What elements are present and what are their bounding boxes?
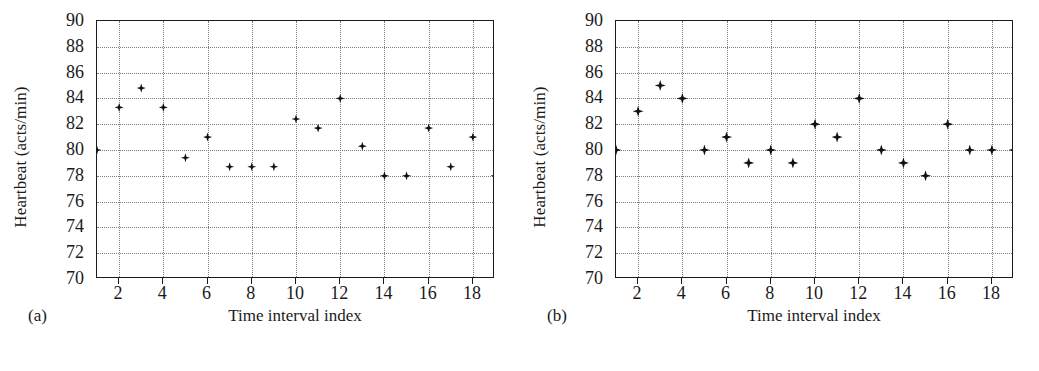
y-tick-label: 88 bbox=[66, 37, 84, 55]
x-axis-label-a: Time interval index bbox=[96, 306, 494, 326]
data-point bbox=[137, 84, 146, 93]
data-point bbox=[358, 142, 367, 151]
data-point bbox=[446, 162, 455, 171]
data-point bbox=[292, 115, 301, 124]
x-tick-label: 16 bbox=[938, 284, 956, 304]
data-point bbox=[876, 145, 887, 156]
panel-b: Heartbeat (acts/min) 7072747678808284868… bbox=[519, 0, 1038, 371]
data-point bbox=[920, 170, 931, 181]
data-point bbox=[203, 133, 212, 142]
data-point bbox=[115, 103, 124, 112]
x-tick-label: 8 bbox=[765, 284, 774, 304]
y-tick-label: 84 bbox=[66, 88, 84, 106]
y-tick-label: 84 bbox=[585, 88, 603, 106]
data-point bbox=[898, 157, 909, 168]
y-tick-label: 70 bbox=[585, 269, 603, 287]
data-point bbox=[402, 171, 411, 180]
x-axis-label-b: Time interval index bbox=[615, 306, 1013, 326]
x-axis-ticks-b: 24681012141618 bbox=[615, 278, 1013, 304]
x-tick-label: 6 bbox=[202, 284, 211, 304]
y-tick-label: 82 bbox=[66, 114, 84, 132]
x-tick-label: 18 bbox=[463, 284, 481, 304]
data-point bbox=[615, 145, 622, 156]
data-points-b bbox=[616, 21, 1012, 277]
y-tick-label: 72 bbox=[66, 243, 84, 261]
data-point bbox=[314, 124, 323, 133]
data-point bbox=[743, 157, 754, 168]
plot-area-b bbox=[615, 20, 1013, 278]
data-point bbox=[424, 124, 433, 133]
x-tick-label: 14 bbox=[374, 284, 392, 304]
data-point bbox=[942, 119, 953, 130]
y-tick-label: 74 bbox=[66, 217, 84, 235]
y-tick-label: 90 bbox=[585, 11, 603, 29]
x-axis-ticks-a: 24681012141618 bbox=[96, 278, 494, 304]
data-point bbox=[269, 162, 278, 171]
data-point bbox=[225, 162, 234, 171]
y-tick-label: 76 bbox=[66, 192, 84, 210]
data-point bbox=[181, 153, 190, 162]
y-tick-label: 90 bbox=[66, 11, 84, 29]
x-tick-label: 2 bbox=[633, 284, 642, 304]
plot-area-a bbox=[96, 20, 494, 278]
y-tick-label: 70 bbox=[66, 269, 84, 287]
data-point bbox=[765, 145, 776, 156]
y-axis-label-b: Heartbeat (acts/min) bbox=[529, 18, 551, 296]
panel-a: Heartbeat (acts/min) 7072747678808284868… bbox=[0, 0, 519, 371]
data-point bbox=[986, 145, 997, 156]
y-tick-label: 80 bbox=[585, 140, 603, 158]
data-point bbox=[468, 133, 477, 142]
data-point bbox=[247, 162, 256, 171]
panel-letter-a: (a) bbox=[28, 306, 47, 326]
data-point bbox=[96, 146, 102, 155]
data-point bbox=[810, 119, 821, 130]
data-point bbox=[491, 171, 495, 180]
data-point bbox=[677, 93, 688, 104]
data-point bbox=[159, 103, 168, 112]
y-tick-label: 80 bbox=[66, 140, 84, 158]
x-tick-label: 8 bbox=[246, 284, 255, 304]
y-tick-label: 82 bbox=[585, 114, 603, 132]
data-point bbox=[854, 93, 865, 104]
x-tick-label: 10 bbox=[286, 284, 304, 304]
x-tick-label: 14 bbox=[893, 284, 911, 304]
y-tick-label: 76 bbox=[585, 192, 603, 210]
data-point bbox=[787, 157, 798, 168]
x-tick-label: 6 bbox=[721, 284, 730, 304]
panel-letter-b: (b) bbox=[547, 306, 567, 326]
data-point bbox=[380, 171, 389, 180]
x-tick-label: 2 bbox=[114, 284, 123, 304]
x-tick-label: 18 bbox=[982, 284, 1000, 304]
x-tick-label: 4 bbox=[158, 284, 167, 304]
data-point bbox=[633, 106, 644, 117]
x-tick-label: 12 bbox=[849, 284, 867, 304]
data-point bbox=[1009, 145, 1014, 156]
y-tick-label: 78 bbox=[585, 166, 603, 184]
x-tick-label: 16 bbox=[419, 284, 437, 304]
y-tick-label: 74 bbox=[585, 217, 603, 235]
y-axis-ticks-a: 7072747678808284868890 bbox=[36, 20, 90, 278]
x-tick-label: 12 bbox=[330, 284, 348, 304]
y-tick-label: 86 bbox=[585, 63, 603, 81]
data-point bbox=[655, 80, 666, 91]
y-tick-label: 88 bbox=[585, 37, 603, 55]
y-tick-label: 78 bbox=[66, 166, 84, 184]
y-axis-ticks-b: 7072747678808284868890 bbox=[555, 20, 609, 278]
heartbeat-figure: Heartbeat (acts/min) 7072747678808284868… bbox=[0, 0, 1039, 371]
data-point bbox=[964, 145, 975, 156]
y-tick-label: 72 bbox=[585, 243, 603, 261]
data-point bbox=[721, 132, 732, 143]
x-tick-label: 10 bbox=[805, 284, 823, 304]
y-axis-label-a: Heartbeat (acts/min) bbox=[10, 18, 32, 296]
data-point bbox=[699, 145, 710, 156]
data-point bbox=[336, 94, 345, 103]
data-point bbox=[832, 132, 843, 143]
x-tick-label: 4 bbox=[677, 284, 686, 304]
y-tick-label: 86 bbox=[66, 63, 84, 81]
data-points-a bbox=[97, 21, 493, 277]
